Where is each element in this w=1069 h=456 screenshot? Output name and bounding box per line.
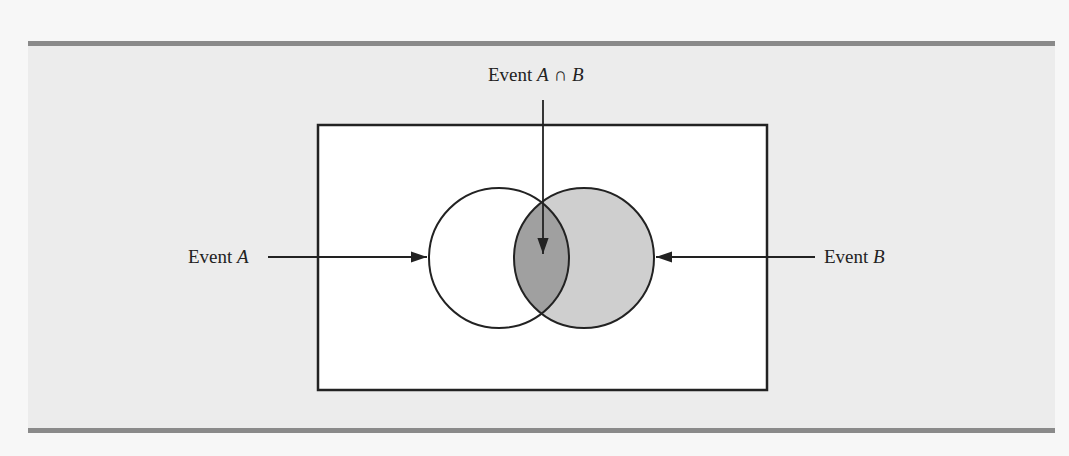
venn-diagram: Event A Event B Event A ∩ B [0,0,1069,456]
label-event-b: Event B [824,246,885,267]
label-intersection: Event A ∩ B [488,64,584,85]
label-event-a: Event A [188,246,249,267]
